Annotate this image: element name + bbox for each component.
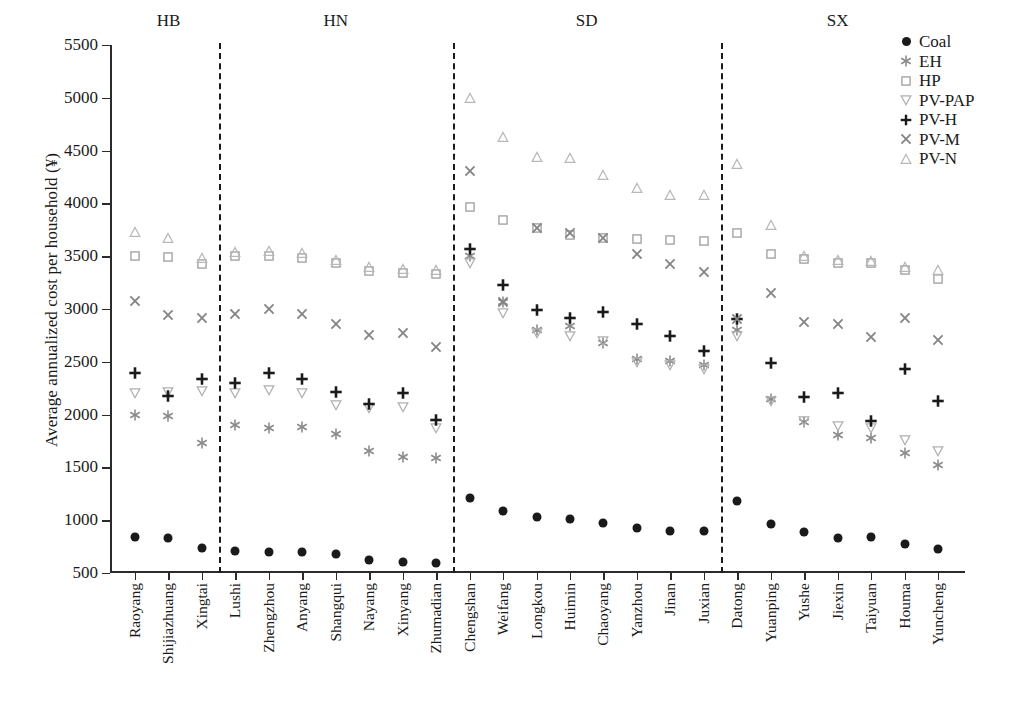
- data-point-pv-n: [731, 158, 743, 170]
- x-tick: [269, 573, 270, 580]
- data-point-pv-n: [363, 261, 375, 273]
- y-tick-label: 2500: [64, 352, 98, 372]
- data-point-hp: [765, 248, 777, 260]
- x-category-label-zhengzhou: Zhengzhou: [260, 583, 278, 653]
- data-point-pv-pap: [196, 385, 208, 397]
- legend-item-hp[interactable]: HP: [893, 71, 974, 91]
- legend-item-pv-pap[interactable]: PV-PAP: [893, 91, 974, 111]
- data-point-eh: [430, 452, 442, 464]
- data-point-pv-n: [564, 152, 576, 164]
- data-point-hp: [464, 201, 476, 213]
- x-tick: [369, 573, 370, 580]
- y-tick: [102, 362, 110, 363]
- data-point-pv-h: [162, 390, 175, 403]
- data-point-pv-n: [765, 219, 777, 231]
- data-point-pv-m: [129, 295, 141, 307]
- x-category-label-yuncheng: Yuncheng: [929, 583, 947, 645]
- x-category-label-xinyang: Xinyang: [394, 583, 412, 636]
- y-tick: [102, 45, 110, 46]
- data-point-pv-m: [363, 329, 375, 341]
- plot-area: 5500500045004000350030002500200015001000…: [110, 45, 965, 573]
- x-tick: [603, 573, 604, 580]
- data-point-coal: [364, 555, 375, 566]
- x-tick: [336, 573, 337, 580]
- legend-label: EH: [919, 53, 942, 70]
- legend-label: PV-PAP: [919, 92, 974, 109]
- data-point-pv-h: [463, 242, 476, 255]
- data-point-eh: [899, 447, 911, 459]
- group-label-sx: SX: [827, 11, 849, 31]
- data-point-pv-m: [531, 222, 543, 234]
- data-point-pv-pap: [765, 395, 777, 407]
- y-axis-line: [110, 45, 112, 573]
- data-point-pv-m: [397, 327, 409, 339]
- legend-label: PV-M: [919, 131, 960, 148]
- y-tick: [102, 256, 110, 257]
- data-point-hp: [698, 235, 710, 247]
- y-tick: [102, 415, 110, 416]
- data-point-coal: [130, 532, 141, 543]
- group-separator: [721, 43, 723, 573]
- data-point-pv-pap: [397, 401, 409, 413]
- data-point-pv-h: [396, 387, 409, 400]
- data-point-pv-h: [865, 414, 878, 427]
- data-point-pv-m: [497, 296, 509, 308]
- data-point-pv-pap: [531, 327, 543, 339]
- y-axis-label: Average annualized cost per household (¥…: [42, 100, 62, 500]
- x-category-label-yuanping: Yuanping: [762, 583, 780, 642]
- x-tick: [302, 573, 303, 580]
- legend-item-pv-m[interactable]: PV-M: [893, 130, 974, 150]
- legend-item-pv-h[interactable]: PV-H: [893, 110, 974, 130]
- data-point-pv-m: [664, 258, 676, 270]
- data-point-pv-m: [899, 312, 911, 324]
- data-point-pv-h: [697, 344, 710, 357]
- group-label-hn: HN: [323, 11, 348, 31]
- data-point-pv-h: [530, 303, 543, 316]
- legend-label: PV-N: [919, 150, 957, 167]
- data-point-pv-h: [798, 391, 811, 404]
- data-point-coal: [230, 546, 241, 557]
- data-point-pv-n: [229, 246, 241, 258]
- x-tick: [838, 573, 839, 580]
- data-point-eh: [296, 421, 308, 433]
- x-category-label-yushe: Yushe: [795, 583, 813, 621]
- y-tick-label: 500: [73, 563, 99, 583]
- legend-marker-plus-icon: [893, 114, 919, 126]
- data-point-pv-m: [698, 266, 710, 278]
- data-point-hp: [497, 214, 509, 226]
- x-category-label-shangqui: Shangqui: [327, 583, 345, 642]
- data-point-pv-h: [764, 356, 777, 369]
- data-point-pv-m: [296, 308, 308, 320]
- data-point-coal: [263, 546, 274, 557]
- legend-label: PV-H: [919, 111, 957, 128]
- legend-marker-circle-filled-icon: [893, 36, 919, 47]
- legend-item-eh[interactable]: EH: [893, 52, 974, 72]
- data-point-pv-n: [664, 189, 676, 201]
- y-tick: [102, 467, 110, 468]
- legend-item-coal[interactable]: Coal: [893, 32, 974, 52]
- data-point-coal: [832, 533, 843, 544]
- y-tick-label: 1000: [64, 510, 98, 530]
- x-tick: [637, 573, 638, 580]
- data-point-coal: [330, 548, 341, 559]
- y-tick: [102, 98, 110, 99]
- data-point-pv-h: [932, 394, 945, 407]
- data-point-pv-pap: [597, 335, 609, 347]
- y-tick-label: 3500: [64, 246, 98, 266]
- data-point-pv-m: [832, 318, 844, 330]
- x-category-label-datong: Datong: [728, 583, 746, 629]
- data-point-pv-pap: [731, 330, 743, 342]
- x-category-label-jiexin: Jiexin: [829, 583, 847, 620]
- y-tick-label: 5000: [64, 88, 98, 108]
- x-tick: [135, 573, 136, 580]
- data-point-coal: [564, 513, 575, 524]
- x-category-label-shijiazhuang: Shijiazhuang: [159, 583, 177, 664]
- x-category-label-xingtai: Xingtai: [193, 583, 211, 630]
- x-tick: [871, 573, 872, 580]
- data-point-pv-n: [397, 263, 409, 275]
- legend-item-pv-n[interactable]: PV-N: [893, 149, 974, 169]
- y-tick-label: 3000: [64, 299, 98, 319]
- x-tick: [704, 573, 705, 580]
- data-point-pv-h: [497, 278, 510, 291]
- data-point-eh: [263, 422, 275, 434]
